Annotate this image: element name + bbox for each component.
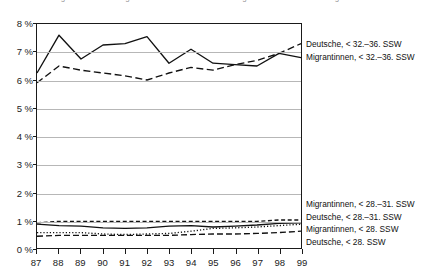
x-axis-label: 90 <box>97 257 108 268</box>
gridline <box>37 81 301 82</box>
x-axis-tick <box>58 249 59 254</box>
x-axis-label: 94 <box>186 257 197 268</box>
x-axis-label: 87 <box>31 257 42 268</box>
x-axis-tick <box>191 249 192 254</box>
x-axis-label: 88 <box>53 257 64 268</box>
x-axis-label: 89 <box>75 257 86 268</box>
legend-bottom-item: Deutsche, < 28.–31. SSW <box>306 211 415 224</box>
x-axis-label: 95 <box>208 257 219 268</box>
y-axis-label: 5 % <box>17 102 33 113</box>
x-axis-tick <box>169 249 170 254</box>
y-axis-label: 8 % <box>17 18 33 29</box>
y-axis-label: 4 % <box>17 131 33 142</box>
series-line <box>37 223 301 229</box>
y-axis-label: 7 % <box>17 46 33 57</box>
y-axis: 0 %1 %2 %3 %4 %5 %6 %7 %8 % <box>0 23 33 249</box>
legend-top-item: Deutsche, < 32.–36. SSW <box>306 38 415 51</box>
x-axis-tick <box>80 249 81 254</box>
y-axis-label: 2 % <box>17 187 33 198</box>
legend-bottom-item: Deutsche, < 28. SSW <box>306 236 415 249</box>
x-axis: 87888990919293949596979899 <box>36 249 302 273</box>
clipped-caption-text: Abbildung: Anteil der Frühgeburten bei D… <box>28 0 358 3</box>
gridline <box>37 222 301 223</box>
gridline <box>37 165 301 166</box>
gridline <box>37 52 301 53</box>
x-axis-label: 93 <box>164 257 175 268</box>
gridline <box>37 194 301 195</box>
legend-top-item: Migrantinnen, < 32.–36. SSW <box>306 51 415 64</box>
x-axis-tick <box>103 249 104 254</box>
series-line <box>37 35 301 73</box>
legend-bottom: Migrantinnen, < 28.–31. SSWDeutsche, < 2… <box>306 198 415 248</box>
gridline <box>37 137 301 138</box>
x-axis-label: 97 <box>252 257 263 268</box>
y-axis-label: 6 % <box>17 74 33 85</box>
y-axis-label: 1 % <box>17 215 33 226</box>
x-axis-tick <box>302 249 303 254</box>
legend-bottom-item: Migrantinnen, < 28. SSW <box>306 223 415 236</box>
x-axis-label: 98 <box>275 257 286 268</box>
gridline <box>37 109 301 110</box>
plot-area <box>36 23 302 249</box>
series-layer <box>37 24 301 248</box>
x-axis-tick <box>236 249 237 254</box>
legend-top: Deutsche, < 32.–36. SSWMigrantinnen, < 3… <box>306 38 415 63</box>
legend-bottom-item: Migrantinnen, < 28.–31. SSW <box>306 198 415 211</box>
x-axis-tick <box>280 249 281 254</box>
x-axis-label: 91 <box>119 257 130 268</box>
x-axis-tick <box>36 249 37 254</box>
x-axis-label: 99 <box>297 257 308 268</box>
chart-container: Abbildung: Anteil der Frühgeburten bei D… <box>0 0 431 275</box>
x-axis-label: 92 <box>142 257 153 268</box>
x-axis-tick <box>258 249 259 254</box>
x-axis-tick <box>147 249 148 254</box>
x-axis-tick <box>213 249 214 254</box>
y-axis-label: 3 % <box>17 159 33 170</box>
x-axis-label: 96 <box>230 257 241 268</box>
y-axis-label: 0 % <box>17 244 33 255</box>
x-axis-tick <box>125 249 126 254</box>
